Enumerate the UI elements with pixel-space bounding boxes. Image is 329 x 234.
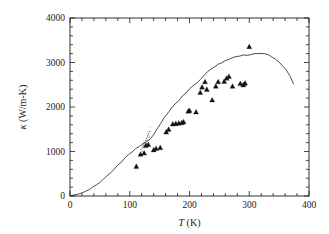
stipple-dot [147,132,148,133]
y-tick-label: 3000 [46,58,65,68]
stipple-dot [142,147,143,148]
stipple-dot [142,146,143,147]
stipple-dot [141,151,142,152]
stipple-dot [150,131,151,132]
stipple-dot [148,134,149,135]
y-tick-label: 2000 [46,102,65,112]
x-axis-label: T (K) [179,217,201,229]
stipple-dot [141,143,142,144]
y-axis-label: κ (W/m-K) [17,85,29,130]
stipple-dot [147,135,148,136]
stipple-dot [150,127,151,128]
stipple-dot [148,137,149,138]
stipple-dot [146,140,147,141]
stipple-dot [149,136,150,137]
x-tick-label: 100 [123,200,138,210]
stipple-dot [144,148,145,149]
y-tick-label: 1000 [46,147,65,157]
stipple-dot [142,151,143,152]
stipple-dot [143,141,144,142]
stipple-dot [144,142,145,143]
x-tick-label: 0 [68,200,73,210]
y-tick-label: 0 [60,191,65,201]
x-tick-label: 200 [182,200,197,210]
stipple-dot [148,140,149,141]
y-tick-label: 4000 [46,13,65,23]
x-tick-label: 300 [242,200,257,210]
x-tick-label: 400 [302,200,317,210]
thermal-conductivity-chart: 0100200300400 01000200030004000 T (K)κ (… [0,0,329,234]
stipple-dot [149,137,150,138]
stipple-dot [143,145,144,146]
stipple-dot [147,139,148,140]
